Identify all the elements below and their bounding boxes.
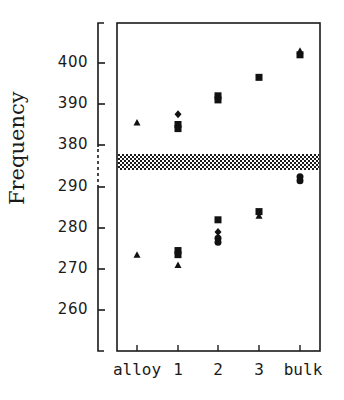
triangle-marker	[134, 251, 141, 258]
x-tick-label-3: 3	[234, 360, 284, 379]
y-tick-label: 390	[38, 94, 88, 112]
square-marker	[215, 216, 222, 223]
square-marker	[256, 74, 263, 81]
plot-frame	[117, 23, 320, 351]
y-tick-label: 290	[38, 177, 88, 195]
y-axis	[98, 23, 105, 351]
square-marker	[256, 208, 263, 215]
circle-marker	[297, 177, 304, 184]
y-tick-label: 380	[38, 135, 88, 153]
y-axis-label: Frequency	[5, 91, 29, 205]
triangle-marker	[175, 261, 182, 268]
square-marker	[175, 251, 182, 258]
circle-marker	[215, 239, 222, 246]
square-marker	[175, 125, 182, 132]
y-tick-label: 270	[38, 259, 88, 277]
y-tick-label: 280	[38, 218, 88, 236]
x-tick-label-bulk: bulk	[278, 360, 328, 379]
triangle-marker	[134, 119, 141, 126]
x-axis-ticks	[137, 345, 300, 351]
square-marker	[215, 96, 222, 103]
square-marker	[297, 51, 304, 58]
diamond-marker	[175, 110, 182, 118]
frequency-chart: Frequency 400 390 380 290 280 270 260 al…	[0, 0, 344, 400]
axis-break-band	[118, 154, 319, 170]
y-tick-label: 260	[38, 300, 88, 318]
y-tick-label: 400	[38, 53, 88, 71]
